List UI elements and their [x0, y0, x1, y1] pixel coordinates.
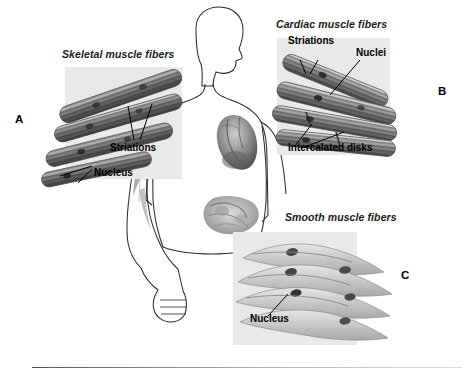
smooth-key-letter: C — [401, 269, 409, 281]
muscle-tissue-figure: Skeletal muscle fibers Striations Nucleu… — [0, 0, 472, 369]
footer-rule — [32, 367, 462, 368]
smooth-panel-label: Smooth muscle fibers — [285, 211, 397, 223]
smooth-fibers-art — [0, 0, 472, 369]
smooth-nucleus-label: Nucleus — [250, 313, 289, 324]
